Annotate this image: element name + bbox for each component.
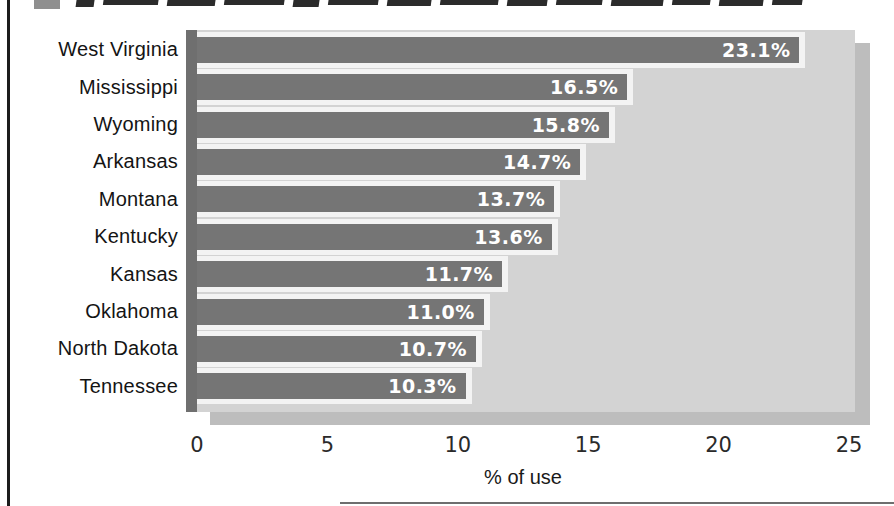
bar-value-label: 13.6% — [474, 226, 551, 248]
bar-row: 15.8% — [197, 106, 849, 143]
bar-value-label: 11.7% — [425, 263, 502, 285]
category-label: Kentucky — [8, 218, 178, 255]
bar: 23.1% — [197, 37, 799, 63]
bar-outline: 11.0% — [197, 294, 490, 330]
bar-outline: 15.8% — [197, 107, 615, 143]
category-label: Wyoming — [8, 106, 178, 143]
bar-row: 10.7% — [197, 330, 849, 367]
x-axis-ticks: 0510152025 — [197, 433, 849, 457]
bar-value-label: 16.5% — [550, 76, 627, 98]
bar: 11.0% — [197, 299, 484, 325]
category-label: Oklahoma — [8, 293, 178, 330]
legend-marker — [34, 0, 60, 9]
bar: 11.7% — [197, 261, 502, 287]
bar-outline: 13.7% — [197, 181, 560, 217]
bar-value-label: 14.7% — [503, 151, 580, 173]
bar-row: 10.3% — [197, 368, 849, 405]
bar-outline: 10.3% — [197, 368, 472, 404]
category-label: North Dakota — [8, 330, 178, 367]
category-labels: West VirginiaMississippiWyomingArkansasM… — [8, 31, 178, 405]
x-tick-label: 15 — [575, 433, 602, 457]
bar-value-label: 15.8% — [532, 114, 609, 136]
bar-row: 14.7% — [197, 143, 849, 180]
bar-value-label: 23.1% — [722, 39, 799, 61]
bar-value-label: 13.7% — [477, 188, 554, 210]
x-tick-label: 5 — [321, 433, 334, 457]
x-tick-label: 10 — [444, 433, 471, 457]
bar: 15.8% — [197, 112, 609, 138]
bar-value-label: 10.7% — [399, 338, 476, 360]
bar-outline: 11.7% — [197, 256, 508, 292]
x-axis-title: % of use — [197, 466, 849, 489]
clipped-title-text-fragments — [75, 0, 802, 8]
category-label: Mississippi — [8, 68, 178, 105]
bar-outline: 14.7% — [197, 144, 586, 180]
x-tick-label: 20 — [705, 433, 732, 457]
bars: 23.1%16.5%15.8%14.7%13.7%13.6%11.7%11.0%… — [197, 31, 849, 405]
category-label: Arkansas — [8, 143, 178, 180]
bar: 14.7% — [197, 149, 580, 175]
bar: 13.6% — [197, 224, 552, 250]
bar: 10.3% — [197, 373, 466, 399]
bar-row: 11.7% — [197, 255, 849, 292]
figure: West VirginiaMississippiWyomingArkansasM… — [0, 0, 894, 506]
bar-row: 11.0% — [197, 293, 849, 330]
x-tick-label: 25 — [836, 433, 863, 457]
bar-row: 23.1% — [197, 31, 849, 68]
figure-bottom-border — [340, 502, 894, 504]
bar: 16.5% — [197, 74, 627, 100]
y-axis-line — [186, 30, 197, 412]
category-label: Montana — [8, 181, 178, 218]
bar-outline: 10.7% — [197, 331, 482, 367]
clipped-title — [0, 0, 894, 10]
bar: 13.7% — [197, 186, 554, 212]
bar-value-label: 11.0% — [406, 301, 483, 323]
bar-row: 13.7% — [197, 181, 849, 218]
bar-value-label: 10.3% — [388, 375, 465, 397]
bar: 10.7% — [197, 336, 476, 362]
bar-row: 13.6% — [197, 218, 849, 255]
x-tick-label: 0 — [190, 433, 203, 457]
category-label: Kansas — [8, 255, 178, 292]
bar-outline: 16.5% — [197, 69, 633, 105]
bar-outline: 13.6% — [197, 219, 558, 255]
bar-outline: 23.1% — [197, 32, 805, 68]
bar-row: 16.5% — [197, 68, 849, 105]
category-label: Tennessee — [8, 368, 178, 405]
category-label: West Virginia — [8, 31, 178, 68]
